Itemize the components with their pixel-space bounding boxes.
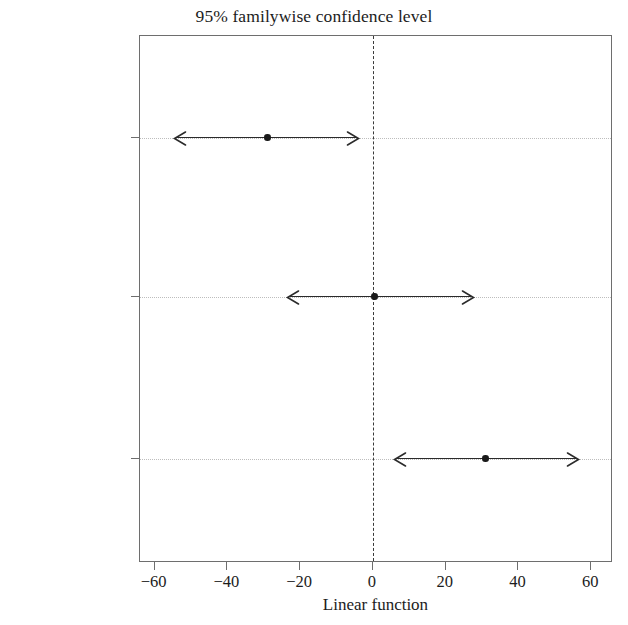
- y-axis-tick: [131, 137, 139, 138]
- x-axis-tick: [372, 562, 373, 570]
- plot-area: [139, 35, 612, 562]
- x-axis-tick: [154, 562, 155, 570]
- x-axis-tick-label: −60: [124, 572, 184, 592]
- arrow-left-icon: [171, 130, 188, 147]
- x-axis-tick: [517, 562, 518, 570]
- x-axis-label: Linear function: [139, 595, 612, 615]
- data-point: [482, 455, 489, 462]
- x-axis-tick-label: 60: [560, 572, 620, 592]
- tukey-confidence-interval-chart: 95% familywise confidence level −60−40−2…: [0, 0, 628, 625]
- x-axis-tick: [590, 562, 591, 570]
- confidence-interval-row: [140, 126, 611, 150]
- data-point: [371, 293, 378, 300]
- confidence-interval-row: [140, 447, 611, 471]
- x-axis-tick-label: 0: [342, 572, 402, 592]
- x-axis-tick-label: 40: [487, 572, 547, 592]
- confidence-interval-line: [290, 296, 471, 297]
- confidence-interval-row: [140, 285, 611, 309]
- data-point: [264, 134, 271, 141]
- arrow-right-icon: [565, 451, 582, 468]
- x-axis-tick-label: −20: [269, 572, 329, 592]
- arrow-right-icon: [460, 289, 477, 306]
- arrow-right-icon: [345, 130, 362, 147]
- x-axis-tick: [445, 562, 446, 570]
- y-axis-tick: [131, 458, 139, 459]
- x-axis-tick: [299, 562, 300, 570]
- x-axis-tick-label: 20: [415, 572, 475, 592]
- y-axis-tick: [131, 296, 139, 297]
- x-axis-tick: [226, 562, 227, 570]
- page-title: 95% familywise confidence level: [0, 6, 628, 27]
- arrow-left-icon: [391, 451, 408, 468]
- x-axis-tick-label: −40: [196, 572, 256, 592]
- arrow-left-icon: [284, 289, 301, 306]
